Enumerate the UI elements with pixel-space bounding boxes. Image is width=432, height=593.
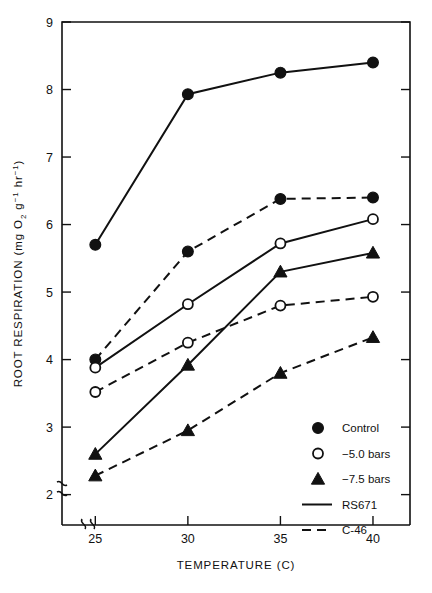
data-point-0-0: [90, 239, 101, 250]
legend-layer: Control−5.0 bars−7.5 barsRS671C-46: [302, 422, 391, 536]
series-4: [95, 253, 373, 454]
data-point-4-3: [366, 246, 379, 258]
series-markers-4: [89, 246, 380, 459]
y-tick-label-8: 8: [46, 83, 53, 97]
series-line-2: [95, 219, 373, 368]
y-tick-label-5: 5: [46, 286, 53, 300]
series-line-4: [95, 253, 373, 454]
root-respiration-line-chart: 2345678925303540 Control−5.0 bars−7.5 ba…: [0, 0, 432, 593]
series-markers-1: [90, 192, 378, 365]
series-layer: [89, 57, 380, 481]
series-line-1: [95, 198, 373, 360]
axes-layer: 2345678925303540: [46, 16, 410, 547]
y-tick-label-9: 9: [46, 16, 53, 30]
series-markers-3: [90, 292, 378, 397]
series-5: [95, 337, 373, 475]
legend-label-0: Control: [342, 422, 379, 434]
x-tick-label-40: 40: [366, 532, 380, 546]
series-2: [95, 219, 373, 368]
legend-label-3: RS671: [342, 499, 377, 511]
x-tick-label-25: 25: [88, 532, 102, 546]
series-markers-5: [89, 331, 380, 481]
series-line-0: [95, 63, 373, 245]
bottom-scan-artifact: [0, 581, 432, 593]
y-tick-label-2: 2: [46, 488, 53, 502]
axis-titles-layer: TEMPERATURE (C)ROOT RESPIRATION (mg O2 g…: [11, 160, 296, 571]
data-point-3-2: [275, 301, 285, 311]
data-point-2-0: [90, 363, 100, 373]
legend-item-0: Control: [313, 422, 379, 434]
series-0: [95, 63, 373, 245]
data-point-2-3: [368, 214, 378, 224]
series-line-5: [95, 337, 373, 475]
y-axis-title: ROOT RESPIRATION (mg O2 g−1 hr−1): [11, 160, 28, 388]
data-point-3-1: [183, 338, 193, 348]
data-point-0-2: [275, 67, 286, 78]
series-markers-2: [90, 214, 378, 373]
y-tick-label-4: 4: [46, 353, 53, 367]
legend-label-4: C-46: [342, 524, 367, 536]
legend-item-3: RS671: [302, 499, 377, 511]
y-tick-label-6: 6: [46, 218, 53, 232]
legend-filled-triangle-icon: [311, 472, 324, 484]
x-axis-break-icon: [81, 519, 94, 529]
data-point-3-0: [90, 387, 100, 397]
legend-item-4: C-46: [302, 524, 367, 536]
x-axis-title: TEMPERATURE (C): [177, 559, 296, 571]
data-point-0-1: [182, 89, 193, 100]
data-point-5-0: [89, 469, 102, 481]
legend-item-2: −7.5 bars: [311, 472, 390, 485]
x-tick-label-35: 35: [273, 532, 287, 546]
data-point-1-3: [368, 192, 379, 203]
series-1: [95, 198, 373, 360]
legend-open-circle-icon: [313, 449, 323, 459]
top-scan-artifact: [0, 0, 432, 12]
legend-label-2: −7.5 bars: [342, 473, 391, 485]
legend-item-1: −5.0 bars: [313, 448, 391, 460]
data-point-2-2: [275, 238, 285, 248]
x-tick-label-30: 30: [181, 532, 195, 546]
data-point-3-3: [368, 292, 378, 302]
legend-label-1: −5.0 bars: [342, 448, 391, 460]
y-tick-label-3: 3: [46, 421, 53, 435]
series-markers-0: [90, 57, 378, 250]
data-point-1-1: [182, 246, 193, 257]
data-point-5-1: [181, 424, 194, 436]
data-point-1-2: [275, 193, 286, 204]
y-tick-label-7: 7: [46, 151, 53, 165]
data-point-2-1: [183, 299, 193, 309]
legend-filled-circle-icon: [313, 423, 324, 434]
figure-root: 2345678925303540 Control−5.0 bars−7.5 ba…: [0, 0, 432, 593]
data-point-0-3: [368, 57, 379, 68]
data-point-5-3: [366, 331, 379, 343]
